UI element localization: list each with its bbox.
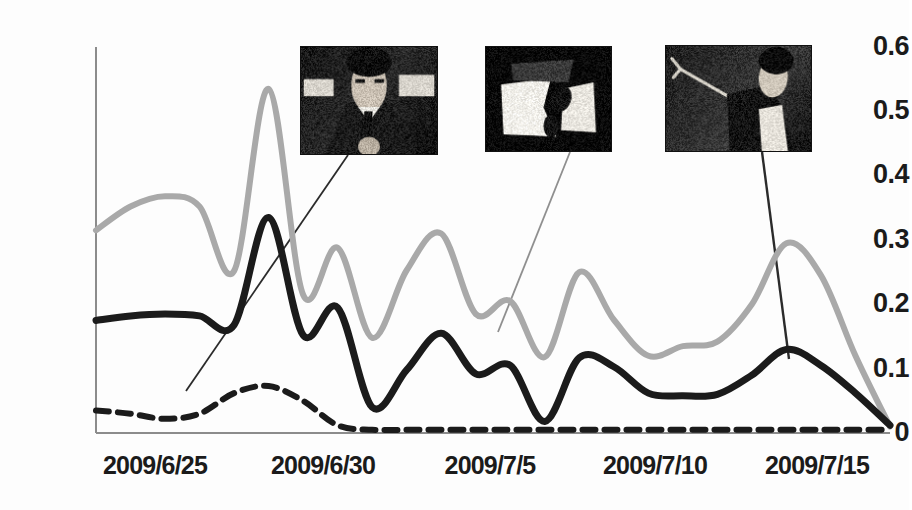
series-dashed-series	[96, 386, 890, 430]
thumbnail-high-contrast-scene[interactable]	[485, 46, 612, 152]
thumbnail-performer-arm-raised[interactable]	[665, 45, 812, 152]
thumbnail-performer-arm-raised-image	[666, 46, 811, 151]
thumbnail-high-contrast-scene-image	[486, 47, 611, 151]
thumbnail-portrait-suit-image	[301, 47, 437, 154]
thumbnail-portrait-suit[interactable]	[300, 46, 438, 155]
